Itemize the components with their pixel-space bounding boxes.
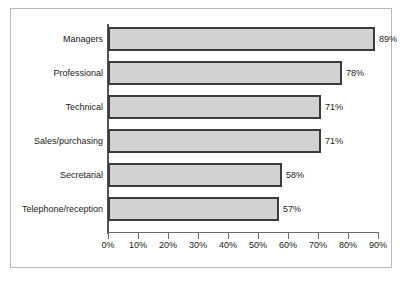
x-axis-tick (198, 233, 199, 239)
category-label: Technical (65, 95, 103, 119)
bar (108, 61, 342, 85)
bar-value-label: 58% (282, 163, 304, 187)
x-axis-tick-labels: 0%10%20%30%40%50%60%70%80%90% (0, 240, 405, 254)
x-axis-tick (348, 233, 349, 239)
bar-wrapper (108, 163, 282, 187)
x-axis-tick (288, 233, 289, 239)
x-axis-tick-label: 90% (358, 240, 398, 250)
bar-value-label: 89% (375, 27, 397, 51)
category-label: Secretarial (60, 163, 103, 187)
x-axis-tick (318, 233, 319, 239)
x-axis-tick (138, 233, 139, 239)
bar-rows: Managers89%Professional78%Technical71%Sa… (0, 27, 405, 231)
plot-area: Managers89%Professional78%Technical71%Sa… (0, 0, 405, 282)
x-axis-tick (258, 233, 259, 239)
bar-wrapper (108, 197, 279, 221)
bar-value-label: 71% (321, 95, 343, 119)
bar-wrapper (108, 129, 321, 153)
bar-row: Professional78% (0, 61, 405, 95)
bar (108, 197, 279, 221)
bar-row: Secretarial58% (0, 163, 405, 197)
category-label: Telephone/reception (22, 197, 103, 221)
bar (108, 163, 282, 187)
x-axis-tick (228, 233, 229, 239)
x-axis-tick (168, 233, 169, 239)
bar-wrapper (108, 61, 342, 85)
category-label: Managers (63, 27, 103, 51)
bar (108, 95, 321, 119)
bar-row: Technical71% (0, 95, 405, 129)
bar-value-label: 78% (342, 61, 364, 85)
bar-row: Managers89% (0, 27, 405, 61)
bar (108, 129, 321, 153)
bar-value-label: 71% (321, 129, 343, 153)
bar-row: Sales/purchasing71% (0, 129, 405, 163)
x-axis-tick (108, 233, 109, 239)
bar-wrapper (108, 27, 375, 51)
category-label: Professional (53, 61, 103, 85)
bar-wrapper (108, 95, 321, 119)
bar (108, 27, 375, 51)
bar-value-label: 57% (279, 197, 301, 221)
category-label: Sales/purchasing (34, 129, 103, 153)
x-axis-tick (378, 233, 379, 239)
bar-row: Telephone/reception57% (0, 197, 405, 231)
chart-figure: Managers89%Professional78%Technical71%Sa… (0, 0, 405, 282)
